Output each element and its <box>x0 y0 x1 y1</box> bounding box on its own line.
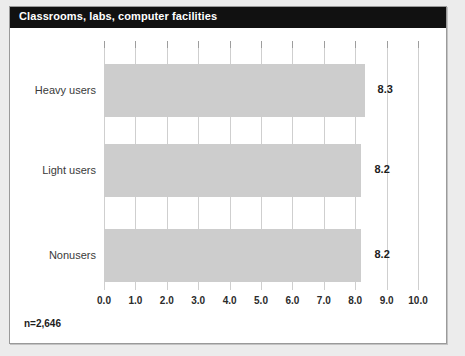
category-label: Heavy users <box>0 84 96 96</box>
sample-size-note: n=2,646 <box>24 318 61 329</box>
x-axis-tick <box>418 41 419 48</box>
x-axis-tick <box>324 41 325 48</box>
bar <box>104 64 365 117</box>
plot-area: 0.01.02.03.04.05.06.07.08.09.010.08.3Hea… <box>104 47 418 290</box>
bar-value-label: 8.3 <box>378 83 393 95</box>
x-axis-tick <box>135 41 136 48</box>
figure-canvas: Classrooms, labs, computer facilities 0.… <box>0 0 465 356</box>
x-axis-tick <box>387 41 388 48</box>
x-axis-tick <box>292 41 293 48</box>
chart-panel: Classrooms, labs, computer facilities 0.… <box>9 6 447 344</box>
x-axis-tick <box>104 41 105 48</box>
gridline <box>418 47 419 290</box>
category-label: Light users <box>0 164 96 176</box>
bar <box>104 229 361 282</box>
x-axis-tick <box>355 41 356 48</box>
chart-title: Classrooms, labs, computer facilities <box>19 10 217 22</box>
x-axis-tick <box>198 41 199 48</box>
x-axis-tick <box>261 41 262 48</box>
category-label: Nonusers <box>0 249 96 261</box>
bar-value-label: 8.2 <box>374 248 389 260</box>
chart-title-bar: Classrooms, labs, computer facilities <box>10 7 446 28</box>
x-axis-tick <box>230 41 231 48</box>
x-axis-tick <box>167 41 168 48</box>
bar <box>104 144 361 197</box>
bar-value-label: 8.2 <box>374 163 389 175</box>
x-axis-tick-label: 10.0 <box>398 295 438 306</box>
